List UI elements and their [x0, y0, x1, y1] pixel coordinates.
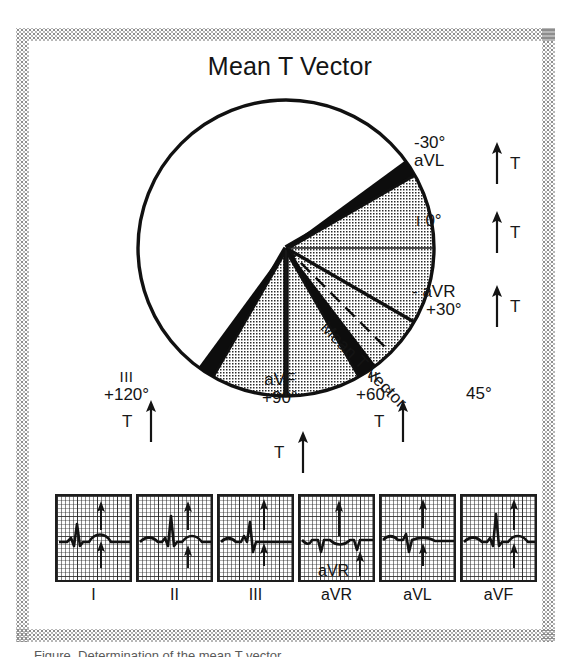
t-marker-lead-two: T [374, 398, 422, 444]
t-marker-avl: T [486, 140, 532, 188]
ecg-strip-avf [460, 494, 537, 582]
frame-border-bottom [16, 629, 555, 642]
ecg-strip-label-avl: aVL [379, 586, 456, 604]
axis-label-avf: aVF +90° [262, 371, 298, 408]
axis-angle-avl: -30° [414, 133, 445, 152]
t-letter-avf: T [274, 443, 284, 463]
t-marker-minus-avr: T [486, 283, 532, 331]
ecg-inset-text-avr: aVR [318, 562, 349, 579]
ecg-strip-row: I II III [55, 494, 535, 586]
axis-lead-iii: III [120, 368, 134, 385]
ecg-strip-avl [379, 494, 456, 582]
axis-label-lead-one: I 0° [416, 212, 442, 230]
ecg-strip-label-i: I [55, 586, 132, 604]
t-marker-lead-one: T [486, 209, 532, 257]
mean-vector-angle-label: 45° [466, 385, 492, 403]
t-letter-avl: T [510, 154, 520, 174]
ecg-strip-i [55, 494, 132, 582]
hexaxial-diagram [130, 90, 450, 410]
ecg-strip-avr: aVR [298, 494, 375, 582]
ecg-strip-iii [217, 494, 294, 582]
ecg-strip-label-ii: II [136, 586, 213, 604]
figure-title: Mean T Vector [0, 52, 580, 81]
t-letter-lead-three: T [122, 412, 132, 432]
figure-page: Mean T Vector [0, 0, 580, 657]
t-marker-avf: T [274, 429, 322, 475]
t-marker-lead-three: T [122, 398, 170, 444]
axis-angle-i: 0° [425, 211, 441, 230]
t-letter-lead-two: T [374, 412, 384, 432]
axis-lead-i: I [416, 212, 421, 229]
axis-lead-avl: aVL [414, 151, 444, 170]
t-letter-lead-one: T [510, 223, 520, 243]
ecg-strip-ii [136, 494, 213, 582]
axis-label-minus-avr: - aVR +30° [412, 283, 462, 320]
frame-border-right [542, 28, 555, 642]
figure-caption: Figure. Determination of the mean T vect… [34, 648, 284, 657]
ecg-strip-label-iii: III [217, 586, 294, 604]
ecg-strip-label-avr: aVR [298, 586, 375, 604]
axis-label-avl: -30° aVL [414, 134, 445, 171]
ecg-strip-label-avf: aVF [460, 586, 537, 604]
axis-lead-avf: aVF [264, 370, 295, 389]
axis-lead-avr: - aVR [412, 282, 455, 301]
frame-border-left [16, 28, 29, 642]
t-letter-minus-avr: T [510, 297, 520, 317]
frame-border-top [16, 28, 555, 41]
axis-angle-avr: +30° [426, 301, 462, 319]
axis-angle-avf: +90° [262, 388, 298, 407]
